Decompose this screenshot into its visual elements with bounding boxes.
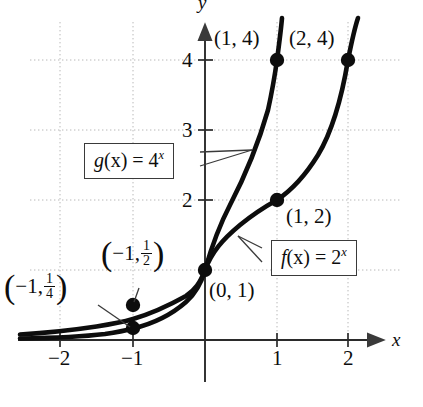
paren-close: )	[153, 240, 164, 268]
denominator: 2	[141, 253, 152, 268]
x-axis-label: x	[392, 330, 400, 349]
point-1-4	[270, 53, 284, 67]
point-label--1-quarter: ( −1, 1 4 )	[4, 272, 67, 302]
point-1-2	[270, 193, 284, 207]
callout-g-function: g(x) = 4x	[84, 143, 174, 179]
leader-f-bottom	[238, 236, 262, 262]
callout-f-function: f(x) = 2x	[271, 240, 357, 276]
paren-open: (	[101, 240, 112, 268]
callout-g-fn: g	[94, 149, 104, 171]
paren-close: )	[56, 273, 67, 301]
leader-g-bottom	[200, 150, 252, 166]
callout-f-arg: (x) = 2	[287, 246, 342, 268]
exponential-functions-graph: x y −2 −1 1 2 4 3 2 (1, 4) (2, 4) (1, 2)…	[0, 0, 423, 407]
xtick-label--2: −2	[48, 348, 70, 369]
callout-g-arg: (x) = 4	[104, 149, 159, 171]
point-label-1-2: (1, 2)	[286, 206, 332, 227]
callout-f-exp: x	[341, 245, 347, 259]
ytick-label-4: 4	[182, 50, 193, 71]
xtick-label-1: 1	[272, 348, 283, 369]
point-label--1-half: ( −1, 1 2 )	[101, 239, 164, 269]
ytick-label-3: 3	[182, 120, 193, 141]
numerator: 1	[44, 272, 55, 286]
point-label-1-4: (1, 4)	[214, 28, 260, 49]
point-0-1	[198, 263, 212, 277]
point--1-quarter	[126, 321, 140, 335]
neg1-half-x: −1,	[112, 243, 140, 264]
callout-g-exp: x	[159, 148, 165, 162]
denominator: 4	[44, 286, 55, 301]
neg1-quarter-x: −1,	[15, 276, 43, 297]
leader-f-top	[238, 236, 262, 248]
fraction-one-quarter: 1 4	[44, 272, 55, 302]
point--1-half	[126, 298, 140, 312]
point-label-0-1: (0, 1)	[209, 280, 255, 301]
paren-open: (	[4, 273, 15, 301]
ytick-label-2: 2	[182, 190, 193, 211]
point-label-2-4: (2, 4)	[289, 28, 335, 49]
point-2-4	[341, 53, 355, 67]
numerator: 1	[141, 239, 152, 253]
fraction-one-half: 1 2	[141, 239, 152, 269]
xtick-label-2: 2	[343, 348, 354, 369]
xtick-label--1: −1	[121, 348, 143, 369]
y-axis-label: y	[198, 0, 206, 12]
leader-g-top	[200, 150, 252, 152]
